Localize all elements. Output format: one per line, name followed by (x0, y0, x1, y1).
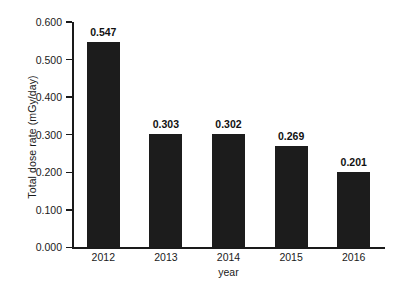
x-axis-title: year (72, 266, 385, 278)
y-axis-tick (66, 59, 72, 60)
y-axis-tick-label: 0.600 (36, 17, 62, 28)
y-axis-tick (66, 96, 72, 97)
y-axis-tick (66, 247, 72, 248)
y-axis-tick-label: 0.300 (36, 130, 62, 141)
x-axis-tick-label: 2016 (324, 252, 384, 263)
y-axis-tick-label: 0.500 (36, 55, 62, 66)
y-axis-line (72, 22, 74, 249)
bar-value-label: 0.547 (73, 27, 133, 38)
x-axis-tick-label: 2014 (199, 252, 259, 263)
bar-value-label: 0.201 (324, 157, 384, 168)
y-axis-tick-label: 0.000 (36, 242, 62, 253)
bar (87, 42, 120, 247)
bar-value-label: 0.269 (261, 131, 321, 142)
x-axis-tick-label: 2012 (73, 252, 133, 263)
y-axis-tick-label: 0.100 (36, 205, 62, 216)
bar (212, 134, 245, 247)
y-axis-tick (66, 21, 72, 22)
bar (275, 146, 308, 247)
y-axis-tick (66, 209, 72, 210)
y-axis-tick-label: 0.400 (36, 92, 62, 103)
x-axis-tick-label: 2013 (136, 252, 196, 263)
bar-chart: Total dose rate (mGy/day) 0.0000.1000.20… (0, 0, 400, 289)
bar-value-label: 0.303 (136, 119, 196, 130)
y-axis-tick-label: 0.200 (36, 167, 62, 178)
bar (149, 134, 182, 248)
y-axis-tick (66, 134, 72, 135)
x-axis-line (72, 247, 385, 249)
x-axis-tick-label: 2015 (261, 252, 321, 263)
bar (337, 172, 370, 248)
y-axis-tick (66, 172, 72, 173)
bar-value-label: 0.302 (199, 119, 259, 130)
